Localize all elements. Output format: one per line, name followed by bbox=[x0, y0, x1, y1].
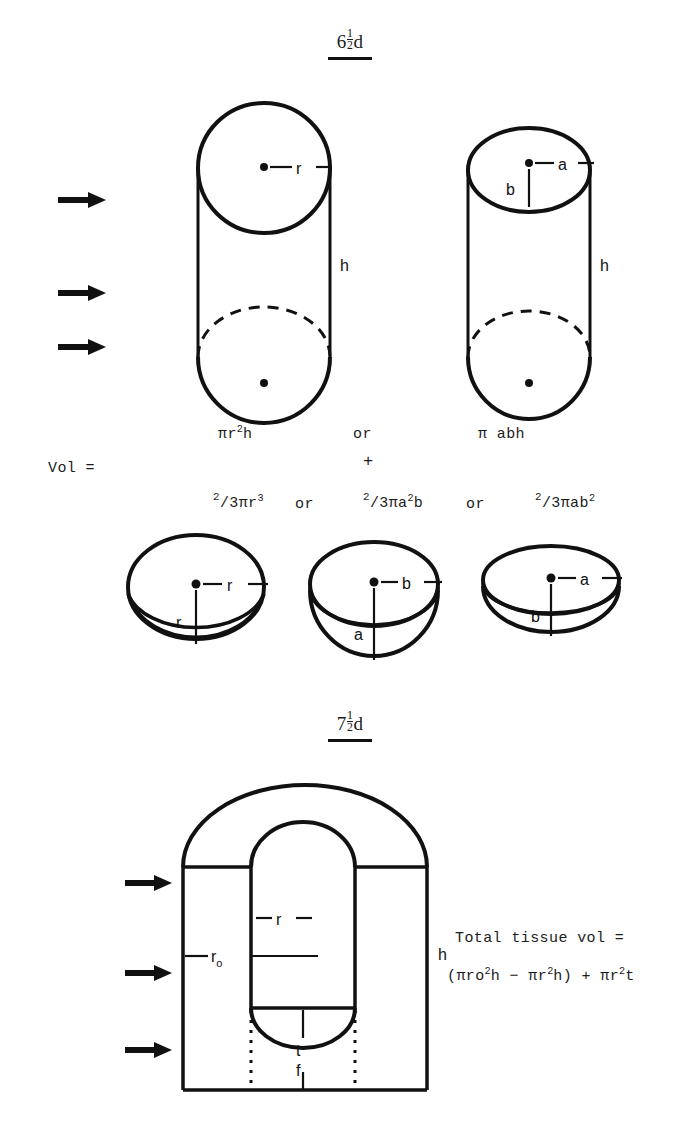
figure-page: 612d bbox=[0, 0, 699, 1130]
arrow-marker bbox=[125, 1042, 172, 1058]
center-dot bbox=[192, 580, 201, 589]
conjunction-or: or bbox=[466, 496, 485, 513]
hemisphere-row-figure: r r b a a b bbox=[0, 532, 699, 682]
center-dot bbox=[260, 163, 268, 171]
arrow-marker bbox=[58, 285, 106, 301]
conjunction-or: or bbox=[353, 426, 372, 443]
inner-cavity-dome bbox=[251, 822, 355, 867]
radius-vertical-label: r bbox=[176, 614, 182, 631]
radius-horizontal-label: r bbox=[227, 577, 233, 594]
semi-axis-a-label: a bbox=[580, 571, 589, 588]
arrow-marker-group-bottom bbox=[125, 875, 172, 1058]
inner-radius-label: r bbox=[276, 911, 282, 928]
floor-label: f bbox=[296, 1062, 301, 1079]
arrow-marker bbox=[125, 875, 172, 891]
elliptical-cylinder: a b h bbox=[468, 128, 609, 419]
arrow-marker bbox=[58, 339, 106, 355]
semi-axis-a-label: a bbox=[354, 626, 363, 643]
height-label: h bbox=[600, 257, 609, 274]
outer-dome bbox=[183, 785, 427, 867]
section-header-7-5d-fraction: 12 bbox=[347, 710, 353, 733]
circular-cylinder: r h bbox=[198, 103, 349, 423]
arrow-marker bbox=[125, 965, 172, 981]
formula-cylinder-circular: πr2h bbox=[218, 424, 252, 443]
top-cylinders-figure: r h a b h bbox=[0, 95, 699, 425]
formula-hemisphere-oblate: 2/3πab2 bbox=[535, 492, 595, 512]
center-dot bbox=[260, 379, 268, 387]
formula-cylinder-elliptical: π abh bbox=[478, 426, 525, 443]
conjunction-or: or bbox=[295, 496, 314, 513]
height-label: h bbox=[340, 257, 349, 274]
section-header-6-5d-fraction: 12 bbox=[347, 28, 353, 51]
arrow-marker-group-top bbox=[58, 192, 106, 355]
semi-axis-a-label: a bbox=[558, 156, 567, 173]
hemisphere-sphere: r r bbox=[128, 535, 268, 644]
hidden-edge-dashed bbox=[468, 311, 590, 357]
semi-axis-b-label: b bbox=[506, 181, 515, 198]
section-header-7-5d: 712d bbox=[318, 710, 382, 742]
total-tissue-vol-label: Total tissue vol = bbox=[455, 930, 624, 947]
vol-label: Vol = bbox=[48, 460, 95, 477]
section-header-7-5d-whole: 7 bbox=[337, 713, 347, 734]
formula-hemisphere-sphere: 2/3πr3 bbox=[213, 492, 264, 512]
center-dot bbox=[547, 574, 556, 583]
section-header-7-5d-rule bbox=[328, 739, 372, 742]
total-tissue-vol-formula: (πro2h − πr2h) + πr2t bbox=[447, 966, 635, 985]
hemisphere-prolate: b a bbox=[310, 542, 442, 660]
section-header-6-5d: 612d bbox=[318, 28, 382, 60]
section-header-6-5d-whole: 6 bbox=[337, 31, 347, 52]
center-dot bbox=[525, 159, 533, 167]
semi-axis-b-label: b bbox=[402, 575, 411, 592]
center-dot bbox=[370, 578, 379, 587]
arrow-marker bbox=[58, 192, 106, 208]
height-label: h bbox=[438, 946, 447, 963]
section-header-6-5d-rule bbox=[328, 57, 372, 60]
outer-radius-label: ro bbox=[211, 948, 222, 969]
formula-hemisphere-prolate: 2/3πa2b bbox=[363, 492, 423, 512]
thickness-label: t bbox=[296, 1042, 301, 1059]
hidden-edge-dashed bbox=[198, 307, 330, 357]
center-dot bbox=[525, 379, 533, 387]
section-header-6-5d-suffix: d bbox=[354, 31, 364, 52]
semi-axis-b-label: b bbox=[531, 608, 540, 625]
section-header-7-5d-suffix: d bbox=[354, 713, 364, 734]
radius-label: r bbox=[296, 160, 302, 177]
plus-sign: + bbox=[363, 452, 374, 471]
hemisphere-oblate: a b bbox=[483, 546, 622, 636]
